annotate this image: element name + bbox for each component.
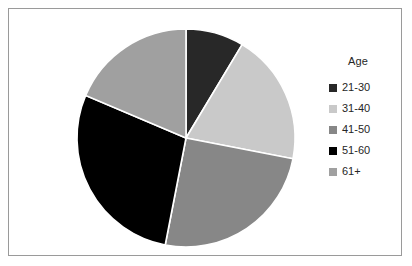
legend-item-61+[interactable]: 61+ [327,161,403,182]
chart-legend: Age 21-3031-4041-5051-6061+ [327,55,403,182]
legend-swatch-icon-61+ [329,168,337,176]
legend-swatch-icon-51-60 [329,147,337,155]
legend-label-61+: 61+ [342,166,361,177]
legend-label-51-60: 51-60 [342,145,370,156]
legend-swatch-icon-21-30 [329,84,337,92]
pie-chart-svg [9,9,319,257]
legend-item-31-40[interactable]: 31-40 [327,98,403,119]
legend-label-31-40: 31-40 [342,103,370,114]
legend-title: Age [327,55,403,67]
legend-label-21-30: 21-30 [342,82,370,93]
legend-swatch-icon-41-50 [329,126,337,134]
pie-slice-group [77,29,295,247]
legend-item-21-30[interactable]: 21-30 [327,77,403,98]
pie-chart-plot-area [9,9,319,257]
legend-swatch-icon-31-40 [329,105,337,113]
chart-frame: Age 21-3031-4041-5051-6061+ [8,8,402,256]
legend-item-51-60[interactable]: 51-60 [327,140,403,161]
chart-screenshot: Age 21-3031-4041-5051-6061+ [0,0,412,266]
legend-item-41-50[interactable]: 41-50 [327,119,403,140]
legend-label-41-50: 41-50 [342,124,370,135]
pie-slice-41-50[interactable] [165,138,293,247]
legend-items: 21-3031-4041-5051-6061+ [327,77,403,182]
